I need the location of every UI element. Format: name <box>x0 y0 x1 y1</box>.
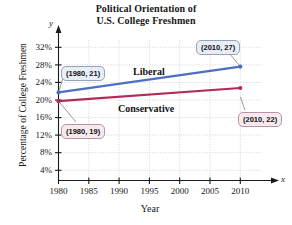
x-tick-label-2000: 2000 <box>163 186 197 196</box>
y-axis-letter: y <box>49 18 53 28</box>
y-tick-label-24: 24% <box>26 77 52 87</box>
x-axis-title: Year <box>58 203 242 214</box>
chart-figure: Political Orientation of U.S. College Fr… <box>0 0 292 225</box>
annotation-conservative-start: (1980, 19) <box>61 124 105 139</box>
x-tick-label-2010: 2010 <box>223 186 257 196</box>
y-axis-title: Percentage of College Freshmen <box>18 23 28 188</box>
x-axis <box>59 178 280 184</box>
series-label-liberal: Liberal <box>133 66 165 77</box>
y-tick-label-32: 32% <box>26 42 52 52</box>
annotation-conservative-end: (2010, 22) <box>238 112 282 127</box>
y-tick-label-28: 28% <box>26 60 52 70</box>
annotation-liberal-end: (2010, 27) <box>196 40 240 55</box>
x-tick-label-1985: 1985 <box>72 186 106 196</box>
y-tick-label-4: 4% <box>26 165 52 175</box>
x-tick-label-1995: 1995 <box>132 186 166 196</box>
x-axis-letter: x <box>281 174 285 184</box>
series-label-conservative: Conservative <box>118 103 174 114</box>
y-tick-label-20: 20% <box>26 95 52 105</box>
x-tick-label-1980: 1980 <box>42 186 76 196</box>
y-tick-label-12: 12% <box>26 130 52 140</box>
x-tick-label-1990: 1990 <box>102 186 136 196</box>
y-tick-label-8: 8% <box>26 147 52 157</box>
y-tick-label-16: 16% <box>26 112 52 122</box>
annotation-liberal-start: (1980, 21) <box>61 66 105 81</box>
x-tick-label-2005: 2005 <box>193 186 227 196</box>
